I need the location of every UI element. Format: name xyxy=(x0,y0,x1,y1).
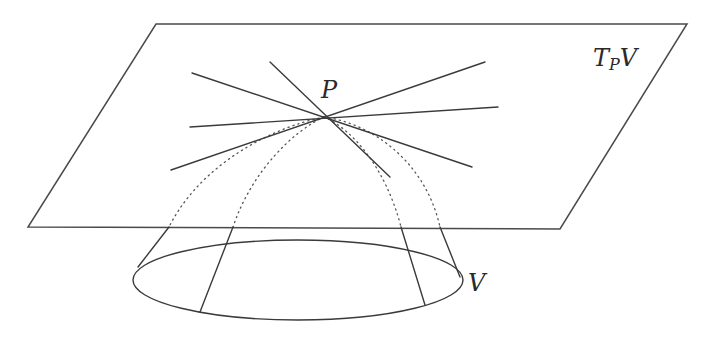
point-p-label: P xyxy=(320,76,338,104)
tangent-space-label: TPV xyxy=(593,44,640,74)
generator-line-2 xyxy=(200,227,233,312)
hidden-curve-3 xyxy=(324,117,401,227)
hidden-curve-4 xyxy=(324,117,440,227)
hidden-cone-curves xyxy=(169,117,440,227)
variety-v-label: V xyxy=(468,269,488,297)
tangent-plane xyxy=(28,24,687,229)
hidden-curve-1 xyxy=(169,117,324,227)
tangent-space-diagram: TPV P V xyxy=(0,0,710,339)
generator-line-3 xyxy=(401,227,425,305)
variety-base-ellipse xyxy=(133,240,463,320)
